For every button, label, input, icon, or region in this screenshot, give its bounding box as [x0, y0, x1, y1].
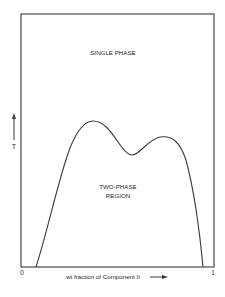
two-phase-label-line1: TWO-PHASE [99, 183, 136, 190]
y-axis-arrow-icon [12, 113, 16, 140]
x-tick-max: 1 [211, 269, 215, 276]
x-tick-min: 0 [20, 269, 24, 276]
y-axis-label: T [12, 143, 17, 150]
phase-diagram: SINGLE PHASE TWO-PHASE REGION T 0 1 wt f… [0, 0, 225, 297]
single-phase-label: SINGLE PHASE [90, 49, 135, 56]
x-axis-arrow-icon [150, 275, 168, 279]
two-phase-label-line2: REGION [106, 192, 130, 199]
x-axis-label: wt fraction of Component II [65, 273, 140, 280]
